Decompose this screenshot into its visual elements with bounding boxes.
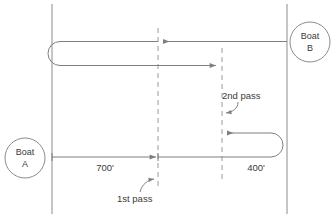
first-pass-label: 1st pass (117, 193, 153, 204)
boat-a-path (52, 133, 283, 161)
boat-a-label-line1: Boat (16, 147, 35, 157)
pass-reference-lines (158, 28, 222, 190)
boat-b-uturn-left (48, 42, 60, 66)
dimension-400-label: 400' (247, 162, 265, 173)
dimension-700-label: 700' (96, 162, 114, 173)
boat-b-circle (290, 22, 330, 62)
boat-a-uturn-right (271, 133, 283, 157)
boat-passing-diagram: Boat A Boat B 700' 400' 1st pass 2nd pas… (0, 0, 334, 219)
second-pass-leader-curve (226, 102, 238, 113)
boat-b-marker[interactable]: Boat B (290, 22, 330, 62)
diagram-canvas: Boat A Boat B 700' 400' 1st pass 2nd pas… (0, 0, 334, 219)
boat-a-circle (5, 138, 45, 178)
boat-b-label-line2: B (307, 43, 313, 53)
second-pass-leader (226, 102, 238, 113)
channel-banks (52, 4, 287, 214)
boat-b-label-line1: Boat (301, 31, 320, 41)
first-pass-leader-curve (140, 179, 154, 192)
boat-a-marker[interactable]: Boat A (5, 138, 45, 178)
boat-b-path (48, 42, 287, 66)
second-pass-label: 2nd pass (222, 90, 261, 101)
boat-a-label-line2: A (22, 159, 28, 169)
first-pass-leader (140, 179, 154, 192)
